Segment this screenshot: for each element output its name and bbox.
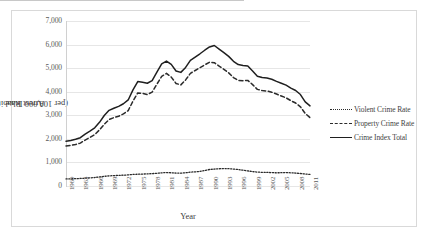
legend-item-label: Violent Crime Rate [354, 106, 411, 114]
x-axis-tick-label: 1966 [98, 177, 105, 190]
legend-swatch-solid-icon [330, 134, 352, 142]
x-axis-tick-label: 1978 [155, 177, 162, 190]
series-line-property-crime-rate [66, 62, 310, 146]
x-axis-tick-label: 1996 [241, 177, 248, 190]
x-axis-tick-label: 1984 [184, 177, 191, 190]
legend-item[interactable]: Property Crime Rate [330, 118, 422, 129]
x-axis-tick-label: 1990 [213, 177, 220, 190]
x-axis-tick-label: 1987 [198, 177, 205, 190]
x-axis-tick-label: 2002 [270, 177, 277, 190]
legend-item-label: Crime Index Total [354, 134, 407, 142]
legend-swatch-dashed-icon [330, 120, 352, 128]
x-axis-tick-label: 2008 [299, 177, 306, 190]
x-axis-tick-label: 1999 [256, 177, 263, 190]
legend-item-label: Property Crime Rate [354, 120, 414, 128]
chart-legend: Violent Crime RateProperty Crime RateCri… [330, 104, 422, 146]
x-axis-tick-label: 1972 [126, 177, 133, 190]
chart-plot-area: Arrest Rate (per 100,000 Inhabitants) 7,… [0, 0, 428, 245]
legend-item[interactable]: Violent Crime Rate [330, 104, 422, 115]
x-axis-tick-label: 1969 [112, 177, 119, 190]
x-axis-tick-label: 1993 [227, 177, 234, 190]
x-axis-tick-label: 1963 [83, 177, 90, 190]
legend-item[interactable]: Crime Index Total [330, 132, 422, 143]
x-axis-title: Year [66, 211, 310, 221]
x-axis-tick-label: 1981 [169, 177, 176, 190]
x-axis-tick-label: 2005 [284, 177, 291, 190]
legend-swatch-dotted-icon [330, 106, 352, 114]
x-axis-tick-label: 1960 [69, 177, 76, 190]
x-axis-tick-label: 1975 [141, 177, 148, 190]
x-axis-tick-label: 2011 [313, 177, 320, 190]
